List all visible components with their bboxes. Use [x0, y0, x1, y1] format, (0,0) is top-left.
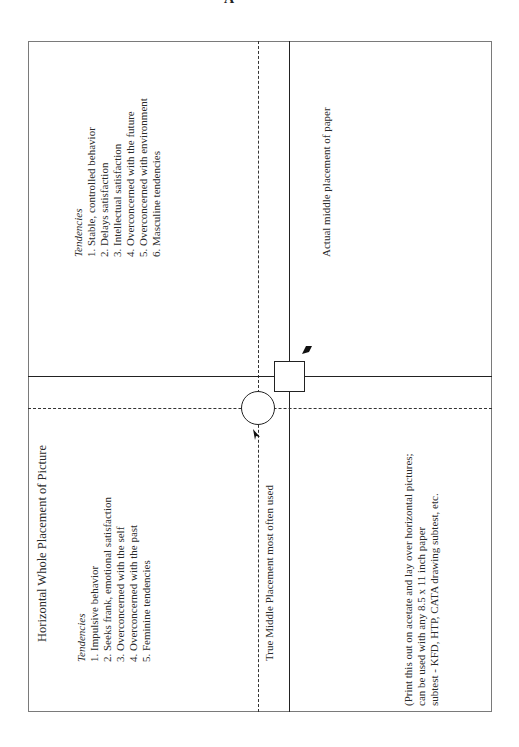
list-item: 3. Intellectual satisfaction	[111, 98, 124, 257]
actual-middle-square-marker	[274, 361, 305, 392]
list-item: 2. Delays satisfaction	[98, 98, 111, 257]
arrow-icon-true-middle	[251, 428, 263, 442]
lower-tendencies-label: Tendencies	[75, 497, 88, 662]
list-item: 1. Stable, controlled behavior	[85, 98, 98, 257]
upper-tendencies-label: Tendencies	[72, 98, 85, 257]
note-line: can be used with any 8.5 x 11 inch paper	[415, 453, 428, 706]
arrow-icon-actual-middle	[300, 342, 314, 356]
lower-tendencies-block: Tendencies 1. Impulsive behavior 2. Seek…	[75, 497, 153, 662]
page-heading-fragment: A	[224, 0, 234, 7]
list-item: 2. Seeks frank, emotional satisfaction	[101, 497, 114, 662]
upper-tendencies-block: Tendencies 1. Stable, controlled behavio…	[72, 98, 163, 257]
list-item: 6. Masculine tendencies	[150, 98, 163, 257]
list-item: 3. Overconcerned with the self	[114, 497, 127, 662]
list-item: 5. Overconcerned with environment	[137, 98, 150, 257]
true-middle-circle-marker	[241, 391, 275, 425]
note-line: (Print this out on acetate and lay over …	[402, 453, 415, 706]
list-item: 4. Overconcerned with the future	[124, 98, 137, 257]
usage-note: (Print this out on acetate and lay over …	[402, 453, 441, 706]
actual-middle-horizontal-line	[28, 376, 492, 377]
true-middle-label: True Middle Placement most often used	[263, 485, 276, 661]
page-title: Horizontal Whole Placement of Picture	[36, 445, 49, 642]
list-item: 5. Feminine tendencies	[140, 497, 153, 662]
note-line: subtest - KFD, HTP, CATA drawing subtest…	[428, 453, 441, 706]
actual-middle-label: Actual middle placement of paper	[320, 107, 333, 257]
list-item: 4. Overconcerned with the past	[127, 497, 140, 662]
list-item: 1. Impulsive behavior	[88, 497, 101, 662]
